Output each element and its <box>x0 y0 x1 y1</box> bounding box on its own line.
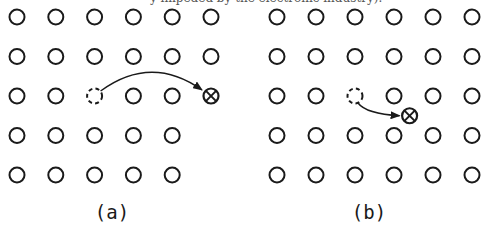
lattice-atom <box>426 89 441 104</box>
lattice-atom <box>126 10 141 25</box>
lattice-atom <box>387 49 402 64</box>
lattice-atom <box>348 10 363 25</box>
lattice-atom <box>465 10 480 25</box>
lattice-atom <box>48 128 63 143</box>
lattice-atom <box>348 128 363 143</box>
lattice-atom <box>426 128 441 143</box>
lattice-atom <box>48 10 63 25</box>
lattice-atom <box>48 49 63 64</box>
lattice-atom <box>165 49 180 64</box>
interstitial-atom-icon <box>402 108 417 123</box>
lattice-atom <box>87 49 102 64</box>
lattice-atom <box>270 49 285 64</box>
panel-a-label: (a) <box>95 201 129 223</box>
lattice-atom <box>309 168 324 183</box>
defect-diagram: (a) (b) <box>0 0 484 237</box>
lattice-atom <box>270 128 285 143</box>
lattice-atom <box>126 89 141 104</box>
lattice-atom <box>465 89 480 104</box>
lattice-atom <box>126 49 141 64</box>
lattice-atom <box>10 168 25 183</box>
vacancy-site <box>348 89 363 104</box>
lattice-atom <box>87 10 102 25</box>
lattice-atom <box>10 128 25 143</box>
lattice-atom <box>465 49 480 64</box>
lattice-atom <box>270 168 285 183</box>
lattice-atom <box>309 128 324 143</box>
lattice-atom <box>426 10 441 25</box>
lattice-atom <box>165 168 180 183</box>
lattice-atom <box>270 89 285 104</box>
lattice-atom <box>10 89 25 104</box>
lattice-atom <box>48 89 63 104</box>
lattice-atom <box>309 89 324 104</box>
lattice-atom <box>165 10 180 25</box>
lattice-atom <box>204 49 219 64</box>
lattice-atom <box>87 168 102 183</box>
lattice-atom <box>387 128 402 143</box>
lattice-atom <box>126 168 141 183</box>
lattice-atom <box>426 49 441 64</box>
lattice-atom <box>387 168 402 183</box>
vacancy-site <box>87 89 102 104</box>
lattice-atom <box>10 10 25 25</box>
lattice-atom <box>126 128 141 143</box>
displacement-arrow <box>101 72 202 91</box>
lattice-atom <box>87 128 102 143</box>
lattice-atom <box>465 128 480 143</box>
panel-b-label: (b) <box>352 201 386 223</box>
lattice-atom <box>426 168 441 183</box>
lattice-atom <box>48 168 63 183</box>
displacement-arrow <box>358 103 400 116</box>
lattice-atom <box>309 49 324 64</box>
panel-b <box>270 10 480 183</box>
lattice-atom <box>348 168 363 183</box>
lattice-atom <box>348 49 363 64</box>
lattice-atom <box>387 10 402 25</box>
lattice-atom <box>204 10 219 25</box>
interstitial-atom-icon <box>204 89 219 104</box>
lattice-atom <box>270 10 285 25</box>
lattice-atom <box>387 89 402 104</box>
lattice-atom <box>309 10 324 25</box>
lattice-atom <box>10 49 25 64</box>
panel-a <box>10 10 219 183</box>
lattice-atom <box>165 128 180 143</box>
lattice-atom <box>465 168 480 183</box>
lattice-atom <box>165 89 180 104</box>
